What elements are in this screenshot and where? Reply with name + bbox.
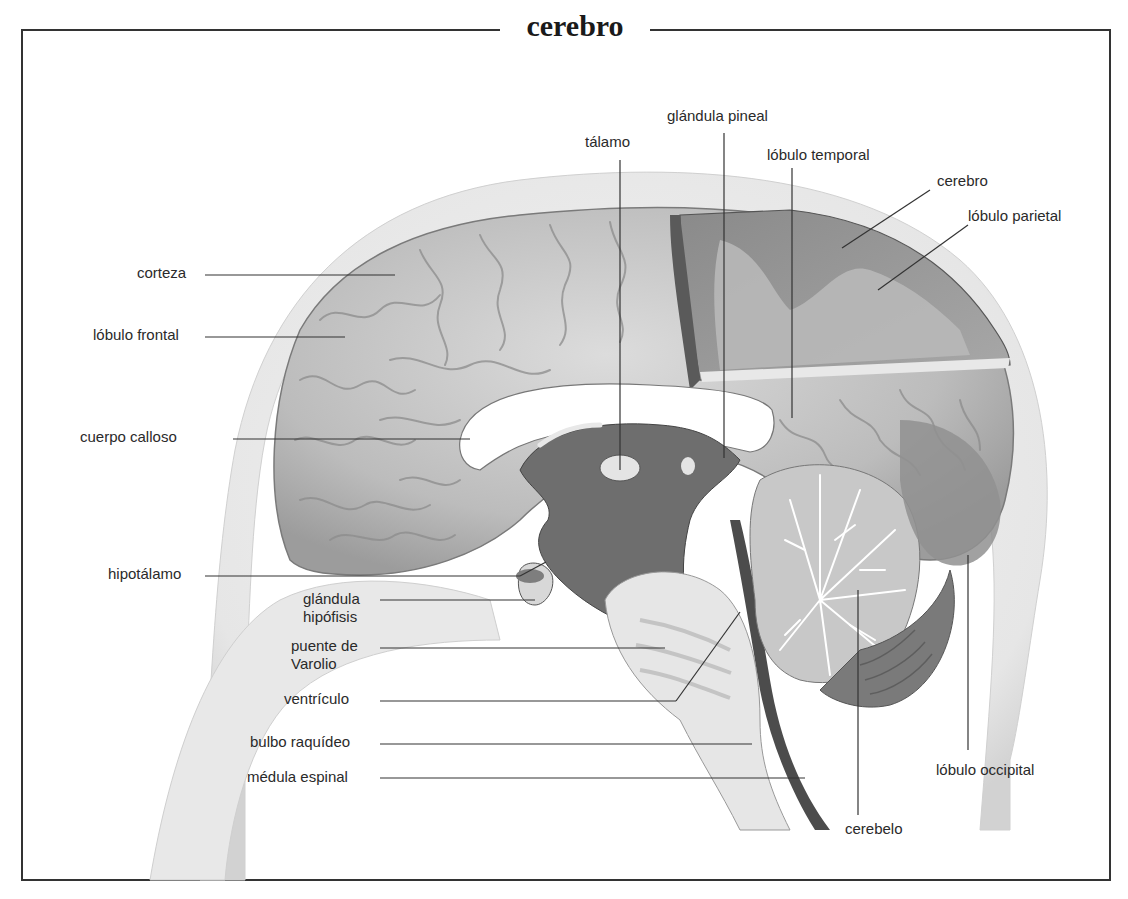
- label-cerebelo: cerebelo: [845, 820, 903, 838]
- label-cerebro: cerebro: [937, 172, 988, 190]
- label-cuerpo-calloso: cuerpo calloso: [80, 428, 177, 446]
- pineal-shape: [681, 457, 695, 475]
- label-hipotalamo: hipotálamo: [108, 565, 181, 583]
- label-glandula-pineal: glándula pineal: [667, 107, 768, 125]
- label-lobulo-occipital: lóbulo occipital: [936, 761, 1034, 779]
- label-lobulo-parietal: lóbulo parietal: [968, 207, 1061, 225]
- label-glandula-hipofisis: glándula hipófisis: [303, 590, 360, 626]
- label-corteza: corteza: [137, 264, 186, 282]
- label-puente-varolio-line1: puente de: [291, 637, 358, 655]
- label-lobulo-frontal: lóbulo frontal: [93, 326, 179, 344]
- label-medula-espinal: médula espinal: [247, 768, 348, 786]
- label-ventriculo: ventrículo: [284, 690, 349, 708]
- label-talamo: tálamo: [585, 133, 630, 151]
- pituitary-shape: [518, 563, 552, 605]
- label-glandula-hipofisis-line1: glándula: [303, 590, 360, 608]
- label-bulbo-raquideo: bulbo raquídeo: [250, 733, 350, 751]
- label-lobulo-temporal: lóbulo temporal: [767, 146, 870, 164]
- label-puente-varolio: puente de Varolio: [291, 637, 358, 673]
- label-puente-varolio-line2: Varolio: [291, 655, 358, 673]
- label-glandula-hipofisis-line2: hipófisis: [303, 608, 360, 626]
